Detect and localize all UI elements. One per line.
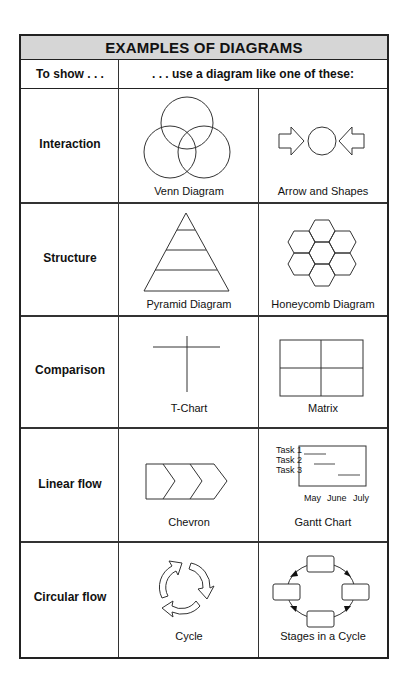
chevron-icon: [146, 464, 227, 499]
t-chart-icon: [153, 336, 220, 392]
arrow-and-shapes-icon: [279, 127, 364, 155]
honeycomb-diagram-icon: [288, 220, 356, 286]
gantt-chart-icon: [299, 446, 366, 486]
pyramid-diagram-icon: [144, 213, 229, 291]
cycle-icon: [159, 561, 214, 617]
stages-in-cycle-icon: [273, 556, 369, 627]
venn-diagram-icon: [144, 97, 230, 178]
diagram-graphics: [0, 0, 408, 692]
matrix-icon: [280, 340, 363, 396]
